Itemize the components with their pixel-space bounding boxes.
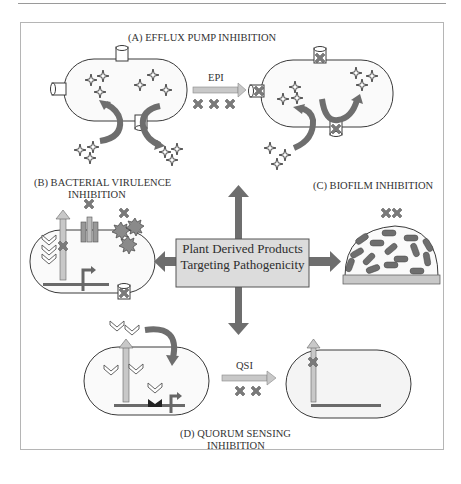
central-box-line2: Targeting Pathogenicity [176,257,309,273]
panel-c-biofilm [343,208,440,284]
central-box-text: Plant Derived Products Targeting Pathoge… [176,241,309,273]
panel-b-title-line1: (B) BACTERIAL VIRULENCE [34,177,171,189]
qsi-arrow [222,371,276,396]
panel-d-title-line2: INHIBITION [207,440,265,452]
panel-a-cell-after [249,47,394,171]
qsi-label: QSI [236,360,253,372]
panel-d-title-line1: (D) QUORUM SENSING [180,428,291,440]
panel-a-cell-before [51,46,188,167]
epi-label: EPI [208,72,224,84]
panel-c-title: (C) BIOFILM INHIBITION [313,180,433,192]
central-box-line1: Plant Derived Products [176,241,309,257]
epi-arrow [193,83,246,109]
panel-a-title: (A) EFFLUX PUMP INHIBITION [128,32,276,44]
panel-d-cell-before [84,321,209,415]
panel-b-title-line2: INHIBITION [68,189,126,201]
panel-b-cell [30,199,155,299]
panel-d-cell-after [286,339,411,418]
